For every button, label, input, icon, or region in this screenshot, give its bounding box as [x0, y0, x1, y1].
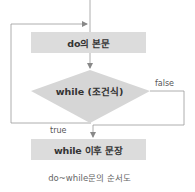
- after-statement-box: while 이후 문장: [31, 139, 146, 160]
- do-body-box: do의 본문: [31, 32, 146, 53]
- condition-label: while (조건식): [31, 84, 148, 98]
- false-label: false: [155, 79, 174, 88]
- after-statement-label: while 이후 문장: [54, 143, 123, 157]
- figure-caption: do~while문의 순서도: [0, 171, 187, 183]
- true-label: true: [50, 126, 66, 135]
- do-body-label: do의 본문: [67, 36, 109, 50]
